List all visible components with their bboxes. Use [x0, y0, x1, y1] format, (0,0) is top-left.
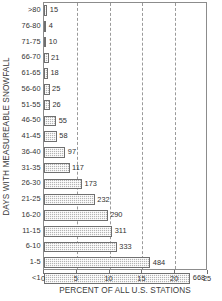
bar-value-label: 21 — [49, 52, 60, 64]
bar-row: 290 — [44, 208, 206, 224]
x-axis-tick-label: 5 — [74, 274, 78, 283]
bar — [44, 242, 117, 253]
bar-row: 232 — [44, 192, 206, 208]
bar — [44, 131, 57, 142]
y-axis-tick-label: 61-65 — [22, 65, 41, 81]
bar-value-label: 97 — [65, 146, 76, 158]
y-axis-tick-label: 76-80 — [22, 18, 41, 34]
y-axis-title-text: DAYS WITH MEASUREABLE SNOWFALL — [2, 57, 11, 215]
y-axis-tick-label: >80 — [28, 2, 41, 18]
y-axis-tick-label: 11-15 — [22, 223, 40, 239]
bar-row: 117 — [44, 161, 206, 177]
bar-row: 58 — [44, 129, 206, 145]
bar — [44, 179, 82, 190]
x-axis-tick-label: 25 — [203, 274, 211, 283]
y-axis-tick-label: 1-5 — [30, 254, 41, 270]
y-axis-tick-label: 16-20 — [22, 207, 41, 223]
y-axis-tick-label: 66-70 — [22, 49, 41, 65]
bar-series: 1541021182526555897117173232290311333484… — [44, 3, 206, 269]
bar-row: 484 — [44, 255, 206, 271]
bar-value-label: 55 — [56, 115, 67, 127]
bar-row: 18 — [44, 66, 206, 82]
bar-row: 26 — [44, 98, 206, 114]
plot-area: 1541021182526555897117173232290311333484… — [43, 2, 207, 270]
bar-row: 25 — [44, 82, 206, 98]
bar-row: 97 — [44, 145, 206, 161]
bar-value-label: 117 — [70, 162, 84, 174]
x-axis-tick-label: 10 — [104, 274, 112, 283]
bar — [44, 116, 56, 127]
bar-row: 173 — [44, 176, 206, 192]
bar-value-label: 333 — [117, 241, 132, 253]
bar-value-label: 232 — [95, 194, 110, 206]
x-axis-tick-labels: 0510152025 — [43, 274, 207, 284]
y-axis-title: DAYS WITH MEASUREABLE SNOWFALL — [0, 0, 13, 272]
bar-value-label: 4 — [46, 20, 53, 32]
x-axis-tick-label: 0 — [41, 274, 45, 283]
x-axis-tick-label: 20 — [170, 274, 178, 283]
bar — [44, 226, 112, 237]
bar-value-label: 26 — [50, 99, 61, 111]
bar-value-label: 10 — [46, 36, 57, 48]
y-axis-tick-label: <1 — [32, 270, 40, 286]
bar — [44, 194, 95, 205]
bar-row: 21 — [44, 50, 206, 66]
bar-value-label: 25 — [50, 83, 61, 95]
y-axis-tick-label: 46-50 — [22, 112, 41, 128]
bar — [44, 163, 70, 174]
bar-row: 15 — [44, 3, 206, 19]
bar-row: 4 — [44, 19, 206, 35]
bar-value-label: 311 — [112, 225, 126, 237]
y-axis-tick-label: 71-75 — [22, 34, 41, 50]
x-axis-tick-label: 15 — [137, 274, 145, 283]
y-axis-tick-label: 51-55 — [22, 97, 41, 113]
bar — [44, 147, 65, 158]
bar-value-label: 18 — [48, 67, 59, 79]
y-axis-tick-label: 56-60 — [22, 81, 41, 97]
y-axis-tick-label: 26-30 — [22, 175, 41, 191]
bar-row: 10 — [44, 35, 206, 51]
bar-row: 333 — [44, 239, 206, 255]
bar-row: 55 — [44, 113, 206, 129]
y-axis-tick-label: 6-10 — [26, 238, 41, 254]
snowfall-bar-chart: DAYS WITH MEASUREABLE SNOWFALL >8076-807… — [0, 0, 222, 301]
x-axis-title: PERCENT OF ALL U.S. STATIONS — [43, 286, 207, 295]
bar-value-label: 15 — [47, 4, 58, 16]
bar-value-label: 290 — [108, 209, 123, 221]
y-axis-tick-labels: >8076-8071-7566-7061-6556-6051-5546-5041… — [13, 2, 42, 270]
y-axis-tick-label: 21-25 — [22, 191, 41, 207]
bar-value-label: 58 — [57, 130, 68, 142]
y-axis-tick-label: 31-35 — [22, 160, 41, 176]
bar-row: 311 — [44, 224, 206, 240]
bar-value-label: 173 — [82, 178, 97, 190]
y-axis-tick-label: 36-40 — [22, 144, 41, 160]
y-axis-tick-label: 41-45 — [22, 128, 41, 144]
bar — [44, 210, 108, 221]
bar — [44, 257, 150, 268]
bar-value-label: 484 — [150, 257, 165, 269]
